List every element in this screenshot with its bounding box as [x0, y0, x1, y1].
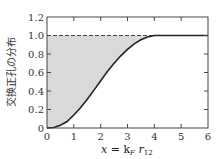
x-axis-label: x = kF r12: [101, 143, 153, 157]
y-tick-label: 1.0: [28, 30, 44, 41]
y-tick-label: 0.2: [28, 104, 44, 115]
x-tick-label: 1: [71, 131, 77, 142]
x-tick-label: 3: [124, 131, 130, 142]
y-tick-label: 0.8: [28, 49, 44, 60]
y-tick-label: 0.6: [28, 67, 44, 78]
x-tick-label: 2: [97, 131, 103, 142]
y-tick-label: 1.2: [28, 12, 44, 23]
x-tick-label: 6: [205, 131, 211, 142]
x-tick-label: 5: [178, 131, 184, 142]
y-tick-label: 0.4: [28, 86, 44, 97]
chart: 0123456 00.20.40.60.81.01.2 交换正孔の分布 x = …: [0, 0, 219, 159]
x-tick-label: 0: [44, 131, 50, 142]
y-tick-label: 0: [38, 123, 44, 134]
x-tick-label: 4: [151, 131, 157, 142]
y-axis-label: 交换正孔の分布: [5, 37, 17, 107]
